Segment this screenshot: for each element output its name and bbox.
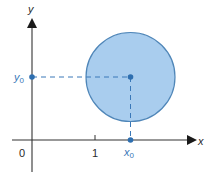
center-point <box>128 74 134 80</box>
x-axis-label: x <box>197 135 204 147</box>
x0-label: x0 <box>123 146 135 160</box>
y-axis-label: y <box>27 3 35 15</box>
y0-label: y0 <box>13 71 25 85</box>
origin-label: 0 <box>19 147 25 159</box>
y0-point <box>29 74 35 80</box>
coordinate-diagram: y x 0 1 y0 x0 <box>0 0 214 172</box>
x0-point <box>128 137 134 143</box>
tick-label-1: 1 <box>92 147 98 159</box>
